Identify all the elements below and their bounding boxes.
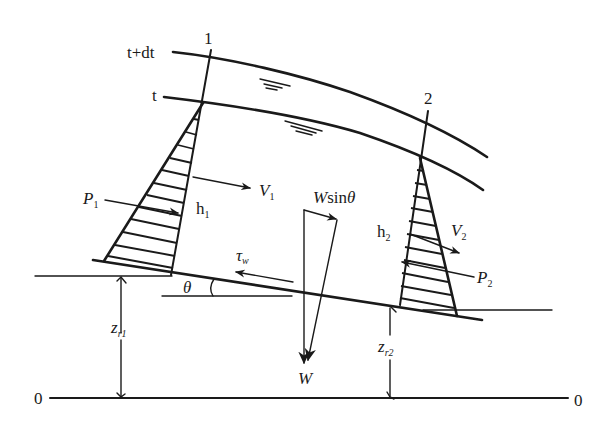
v2-label: V2 <box>451 221 466 242</box>
v1-arrow <box>193 177 250 188</box>
surface-label-t-plus-dt: t+dt <box>127 43 155 62</box>
zr1-label: zr1 <box>110 318 127 339</box>
surface-t <box>164 97 483 190</box>
section-2-label: 2 <box>424 89 433 108</box>
zr2-label: zr2 <box>377 337 394 358</box>
tau-w-arrow <box>236 272 293 282</box>
h1-label: h1 <box>196 199 210 220</box>
theta-label: θ <box>183 278 191 297</box>
datum-label-right: 0 <box>574 391 583 410</box>
v1-label: V1 <box>259 181 274 202</box>
h2-label: h2 <box>377 222 391 243</box>
tau-w-label: τw <box>236 246 249 266</box>
w-label: W <box>298 369 314 388</box>
pressure-distribution-1 <box>104 103 203 268</box>
pressure-distribution-2 <box>400 158 457 316</box>
w-normal-component <box>308 220 337 360</box>
p1-label: P1 <box>82 189 98 210</box>
p2-label: P2 <box>476 268 492 289</box>
free-surface-symbol-lower <box>285 121 322 135</box>
w-sin-theta-arrow <box>304 210 336 219</box>
surface-label-t: t <box>152 86 157 105</box>
flow-diagram: 1 2 t+dt t P1 h1 V1 Wsinθ h2 V2 P2 τw θ … <box>0 0 616 427</box>
datum-label-left: 0 <box>34 389 43 408</box>
w-sin-theta-label: Wsinθ <box>313 188 355 207</box>
free-surface-symbol-upper <box>260 79 290 90</box>
theta-arc <box>211 279 214 296</box>
section-1-label: 1 <box>204 29 213 48</box>
